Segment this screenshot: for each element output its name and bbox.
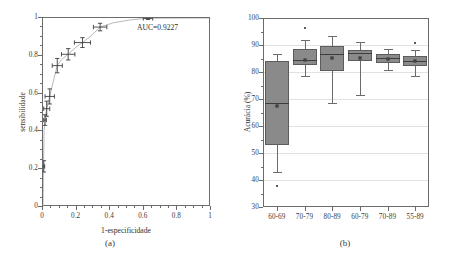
roc-x-tick-label: 0.8	[172, 212, 181, 220]
boxplot-x-tick-label: 80-89	[324, 213, 341, 221]
roc-curve-svg	[43, 18, 211, 207]
boxplot-x-tick	[305, 207, 306, 211]
boxplot-whisker	[332, 36, 333, 46]
roc-y-minor-tick	[40, 121, 42, 122]
roc-y-minor-tick	[40, 64, 42, 65]
boxplot-y-axis-title: Acurácia (%)	[243, 92, 252, 133]
boxplot-x-tick-label: 60-69	[268, 213, 285, 221]
roc-y-axis-title: sensibilidade	[18, 92, 27, 132]
roc-y-tick	[38, 168, 42, 169]
roc-y-minor-tick	[40, 140, 42, 141]
boxplot-whisker-cap	[384, 70, 393, 71]
boxplot-box	[293, 49, 317, 65]
boxplot-x-tick	[388, 207, 389, 211]
boxplot-y-tick	[259, 126, 263, 127]
roc-y-tick-label: 0	[18, 202, 38, 210]
roc-y-tick	[38, 93, 42, 94]
boxplot-mean-marker	[303, 59, 306, 62]
roc-x-minor-tick	[202, 206, 203, 208]
roc-x-tick	[143, 206, 144, 210]
boxplot-whisker	[415, 66, 416, 76]
boxplot-x-tick	[360, 207, 361, 211]
boxplot-mean-marker	[331, 56, 334, 59]
roc-x-tick-label: 0.6	[138, 212, 147, 220]
boxplot-y-tick-label: 80	[237, 68, 259, 76]
boxplot-y-minor-tick	[261, 194, 263, 195]
boxplot-whisker-cap	[411, 76, 420, 77]
roc-x-minor-tick	[160, 206, 161, 208]
roc-x-minor-tick	[134, 206, 135, 208]
roc-x-minor-tick	[118, 206, 119, 208]
boxplot-whisker-cap	[384, 49, 393, 50]
roc-auc-annotation: AUC=0.9227	[137, 23, 178, 32]
roc-y-minor-tick	[40, 36, 42, 37]
boxplot-y-tick	[259, 153, 263, 154]
boxplot-y-tick-label: 40	[237, 176, 259, 184]
roc-y-minor-tick	[40, 83, 42, 84]
boxplot-whisker-cap	[356, 42, 365, 43]
boxplot-x-tick	[277, 207, 278, 211]
boxplot-y-tick	[259, 180, 263, 181]
roc-y-minor-tick	[40, 26, 42, 27]
panel-b-boxplot: 3040506070809010060-6970-7980-8960-7970-…	[232, 0, 463, 261]
boxplot-y-tick-label: 50	[237, 149, 259, 157]
boxplot-whisker	[277, 145, 278, 171]
roc-x-minor-tick	[168, 206, 169, 208]
boxplot-y-tick-label: 90	[237, 41, 259, 49]
roc-x-tick-label: 1	[208, 212, 212, 220]
boxplot-y-minor-tick	[261, 32, 263, 33]
roc-x-tick	[176, 206, 177, 210]
roc-x-minor-tick	[151, 206, 152, 208]
boxplot-whisker	[305, 65, 306, 76]
boxplot-y-minor-tick	[261, 167, 263, 168]
roc-x-tick	[42, 206, 43, 210]
boxplot-whisker	[332, 71, 333, 103]
boxplot-x-tick-label: 70-89	[379, 213, 396, 221]
boxplot-y-tick-label: 100	[237, 14, 259, 22]
roc-curve-line	[43, 18, 211, 207]
boxplot-mean-marker	[414, 59, 417, 62]
boxplot-y-tick	[259, 18, 263, 19]
roc-y-minor-tick	[40, 197, 42, 198]
roc-x-tick-label: 0.4	[105, 212, 114, 220]
roc-y-tick-label: 0.2	[18, 164, 38, 172]
boxplot-whisker-cap	[328, 36, 337, 37]
roc-x-minor-tick	[67, 206, 68, 208]
boxplot-whisker	[388, 63, 389, 70]
boxplot-y-tick	[259, 72, 263, 73]
boxplot-outlier	[304, 27, 306, 29]
roc-y-tick-label: 1	[18, 13, 38, 21]
roc-y-tick-label: 0.8	[18, 51, 38, 59]
boxplot-y-minor-tick	[261, 113, 263, 114]
boxplot-mean-marker	[358, 56, 361, 59]
roc-x-minor-tick	[59, 206, 60, 208]
boxplot-x-tick-label: 60-79	[351, 213, 368, 221]
roc-x-minor-tick	[126, 206, 127, 208]
boxplot-mean-marker	[275, 105, 278, 108]
boxplot-x-tick	[415, 207, 416, 211]
boxplot-whisker	[360, 42, 361, 50]
roc-y-minor-tick	[40, 159, 42, 160]
roc-x-tick-label: 0	[40, 212, 44, 220]
boxplot-whisker	[360, 61, 361, 95]
roc-y-tick	[38, 55, 42, 56]
boxplot-gridline	[264, 45, 428, 46]
boxplot-whisker	[277, 54, 278, 61]
boxplot-y-minor-tick	[261, 86, 263, 87]
roc-x-minor-tick	[84, 206, 85, 208]
boxplot-y-tick	[259, 99, 263, 100]
boxplot-y-tick	[259, 207, 263, 208]
boxplot-median-line	[348, 53, 372, 54]
figure-container: 00.20.40.60.8100.20.40.60.81 AUC=0.9227 …	[0, 0, 463, 261]
boxplot-median-line	[320, 54, 344, 55]
roc-y-minor-tick	[40, 112, 42, 113]
roc-x-tick	[210, 206, 211, 210]
roc-x-minor-tick	[109, 206, 110, 208]
boxplot-whisker	[305, 40, 306, 49]
boxplot-y-tick-label: 30	[237, 203, 259, 211]
boxplot-x-tick-label: 55-89	[407, 213, 424, 221]
boxplot-gridline	[264, 180, 428, 181]
roc-errorbar-point	[143, 18, 152, 21]
roc-x-minor-tick	[92, 206, 93, 208]
roc-x-axis-title: 1-especificidade	[101, 226, 151, 235]
